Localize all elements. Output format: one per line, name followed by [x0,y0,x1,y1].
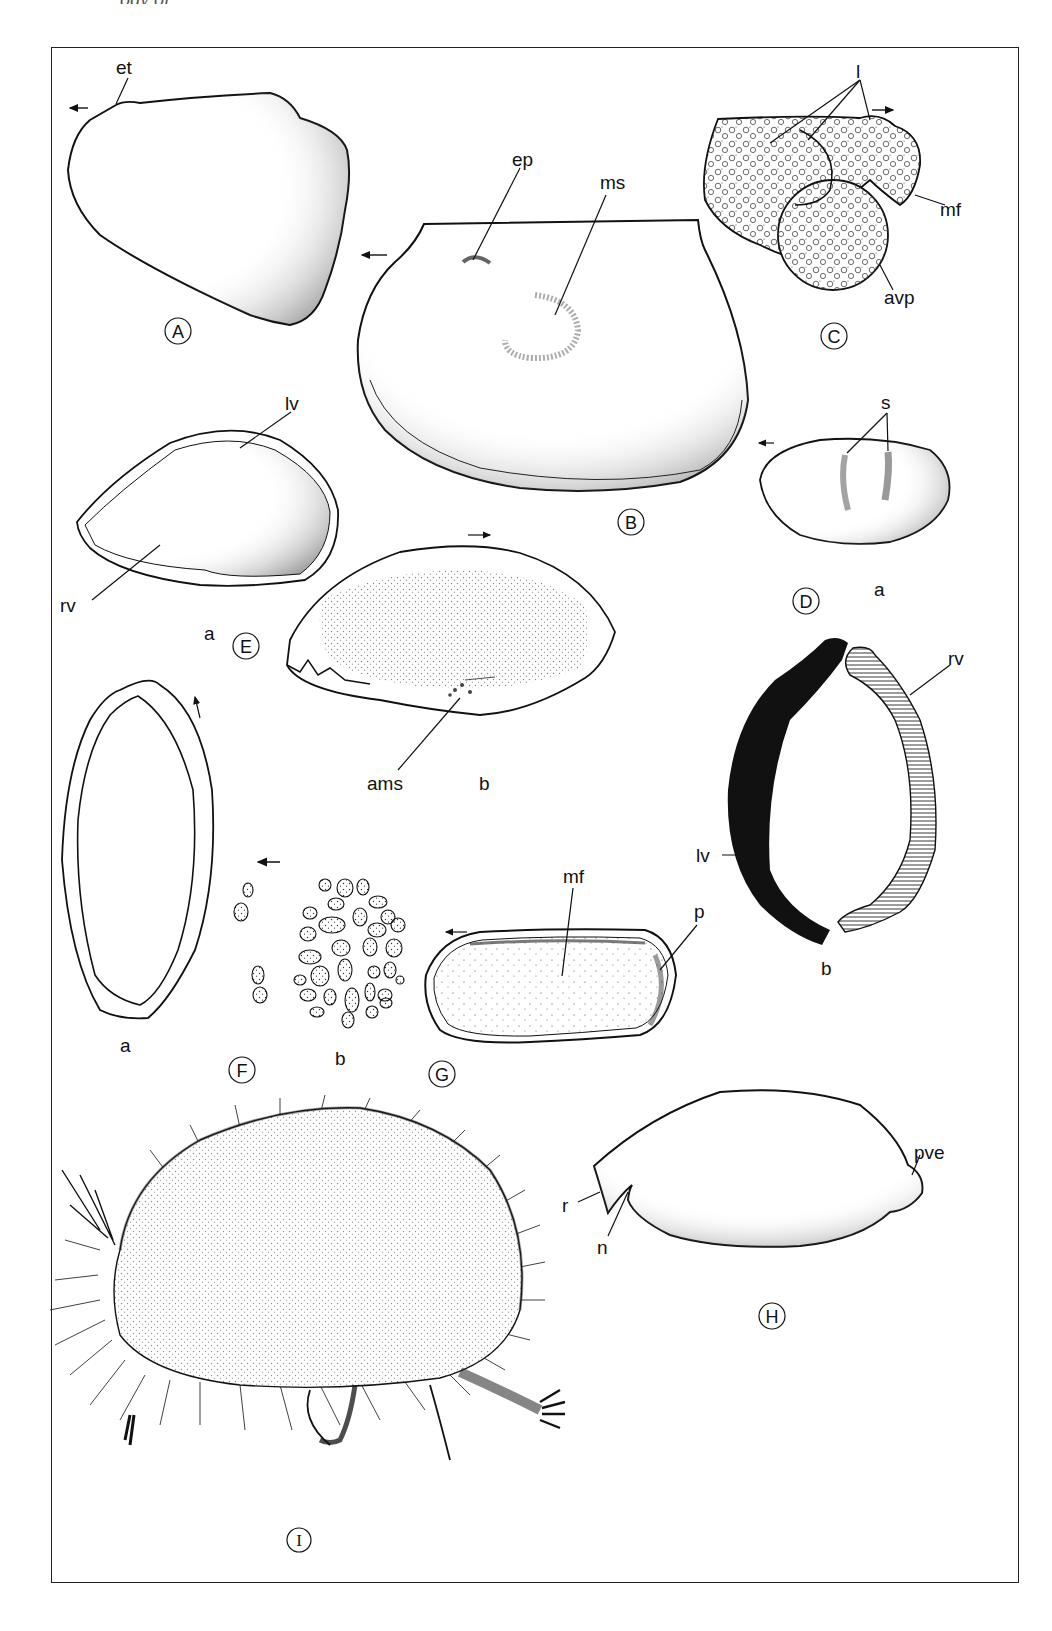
figure-b: ep ms B [358,149,748,535]
label-n: n [597,1237,608,1258]
figure-d-label: D [800,592,813,612]
label-l: l [856,61,860,82]
label-ams: ams [367,773,403,794]
figure-a: et A [68,57,349,344]
figure-e-sub-b: b [479,773,490,794]
label-ep: ep [512,149,533,170]
orientation-arrow-icon [195,697,200,718]
figure-f-b: b F [229,862,405,1083]
figure-d-b: rv lv b [696,638,964,979]
figure-f-a: a [62,681,213,1056]
label-p: p [694,901,705,922]
figure-i-label: I [296,1531,302,1550]
figure-g: mf p G [425,866,704,1087]
label-mf-g: mf [563,866,585,887]
label-pve: pve [914,1142,945,1163]
label-ms: ms [600,172,625,193]
label-et: et [116,57,133,78]
label-rv-d: rv [948,648,964,669]
figure-c: l mf avp C [704,61,962,349]
figure-i: I [50,1095,565,1552]
figure-e-b: ams b [287,535,615,794]
figure-h-label: H [766,1307,779,1327]
label-mf: mf [940,199,962,220]
figure-a-label: A [172,322,184,342]
figure-e-label: E [240,637,252,657]
figure-f-sub-a: a [120,1035,131,1056]
figure-f-label: F [237,1061,248,1081]
figure-g-label: G [435,1065,449,1085]
label-r: r [562,1195,569,1216]
label-lv-d: lv [696,845,710,866]
figure-b-label: B [625,513,637,533]
label-s: s [881,392,891,413]
figure-e-a: lv rv a E [60,393,338,659]
label-lv-e: lv [285,393,299,414]
ostracod-plate: et A ep ms B l mf avp C [0,0,1052,1631]
figure-e-sub-a: a [204,623,215,644]
label-avp: avp [884,287,915,308]
label-rv-e: rv [60,595,76,616]
figure-h: r n pve H [562,1090,945,1329]
figure-c-label: C [828,327,841,347]
figure-d-sub-b: b [821,958,832,979]
figure-d-sub-a: a [874,579,885,600]
figure-f-sub-b: b [335,1048,346,1069]
figure-d-a: s a D [759,392,950,614]
